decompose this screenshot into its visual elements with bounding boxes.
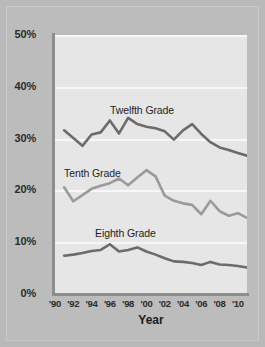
series-line [64, 118, 247, 156]
x-axis-tick: '08 [214, 298, 226, 309]
series-label-twelfth-grade: Twelfth Grade [110, 104, 174, 116]
x-axis-tick: '04 [177, 298, 189, 309]
x-axis-tick-labels: '90'92'94'96'98'00'02'04'06'08'10 [55, 298, 251, 312]
y-axis-tick: 0% [0, 287, 36, 299]
x-axis-tick: '96 [104, 298, 116, 309]
chart-figure: 0%10%20%30%40%50% Twelfth Grade Tenth Gr… [0, 0, 265, 347]
series-label-tenth-grade: Tenth Grade [64, 167, 121, 179]
y-axis-tick: 40% [0, 80, 36, 92]
series-line [64, 244, 247, 267]
chart-frame: 0%10%20%30%40%50% Twelfth Grade Tenth Gr… [6, 6, 259, 341]
x-axis-title: Year [55, 313, 247, 327]
x-axis-tick: '90 [49, 298, 61, 309]
x-axis-tick: '10 [232, 298, 244, 309]
series-lines [55, 35, 247, 294]
x-axis-tick: '02 [159, 298, 171, 309]
y-axis-tick: 50% [0, 28, 36, 40]
y-axis-tick: 20% [0, 183, 36, 195]
y-axis-tick: 30% [0, 132, 36, 144]
x-axis-tick: '92 [67, 298, 79, 309]
y-axis-tick: 10% [0, 235, 36, 247]
x-axis-tick: '06 [195, 298, 207, 309]
x-axis-tick: '94 [86, 298, 98, 309]
series-label-eighth-grade: Eighth Grade [95, 227, 156, 239]
x-axis-tick: '00 [140, 298, 152, 309]
x-axis-tick: '98 [122, 298, 134, 309]
